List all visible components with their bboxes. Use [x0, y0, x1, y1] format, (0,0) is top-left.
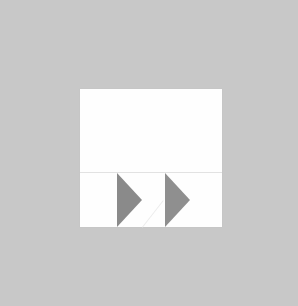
- paper-square: [80, 89, 222, 227]
- triangle-right-icon: [117, 173, 142, 227]
- fold-line: [142, 200, 164, 227]
- triangle-right-icon: [165, 173, 190, 227]
- background: { "scene": { "description": "White squar…: [0, 0, 298, 306]
- divider-line: [80, 172, 222, 173]
